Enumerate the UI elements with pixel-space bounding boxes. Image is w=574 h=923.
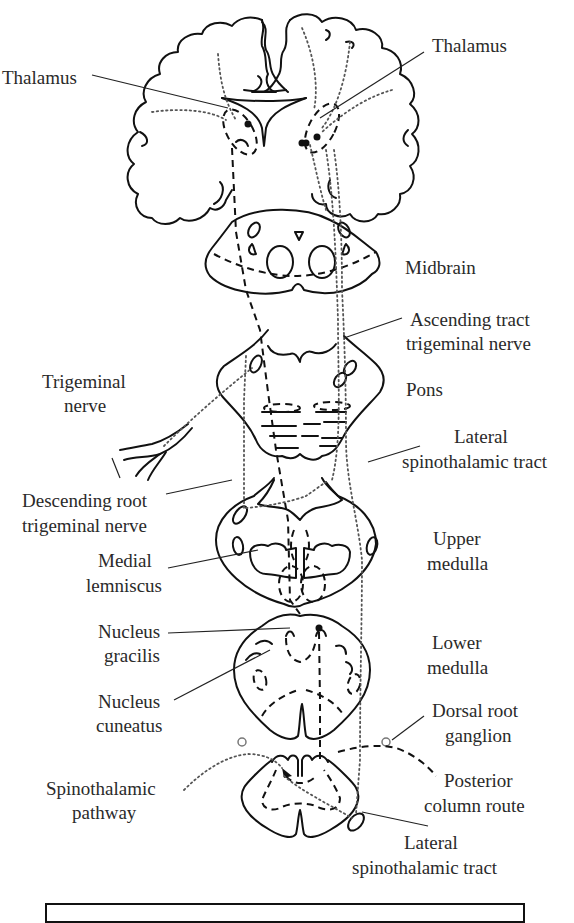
label-dorsal-root-ganglion: Dorsal root — [432, 700, 519, 721]
label-spinothalamic-pathway: Spinothalamic — [46, 778, 156, 799]
label-medial-lemniscus-2: lemniscus — [86, 575, 162, 596]
cerebrum — [128, 14, 419, 224]
label-descending-root-2: trigeminal nerve — [22, 515, 147, 536]
label-lower-medulla: Lower — [432, 632, 482, 653]
label-pons: Pons — [406, 379, 443, 400]
label-medial-lemniscus: Medial — [98, 550, 152, 571]
label-trigeminal-nerve: Trigeminal — [42, 371, 126, 392]
spinal-cord — [184, 738, 436, 837]
label-lateral-spinothalamic-upper-2: spinothalamic tract — [402, 451, 548, 472]
label-posterior-column-route: Posterior — [444, 770, 513, 791]
lower-medulla — [234, 615, 370, 739]
label-dorsal-root-ganglion-2: ganglion — [445, 725, 512, 746]
label-upper-medulla-2: medulla — [427, 553, 489, 574]
legend-box — [45, 903, 525, 923]
label-ascending-tract-2: trigeminal nerve — [406, 333, 531, 354]
label-nucleus-gracilis: Nucleus — [98, 621, 160, 642]
label-thalamus-left: Thalamus — [2, 67, 77, 88]
label-nucleus-cuneatus: Nucleus — [98, 691, 160, 712]
label-lateral-spinothalamic-lower-2: spinothalamic tract — [352, 857, 498, 878]
label-descending-root: Descending root — [22, 490, 148, 511]
label-spinothalamic-pathway-2: pathway — [72, 802, 137, 823]
label-thalamus-right: Thalamus — [432, 35, 507, 56]
upper-medulla — [216, 478, 379, 607]
label-upper-medulla: Upper — [433, 528, 481, 549]
midbrain — [206, 210, 380, 294]
label-lateral-spinothalamic-lower: Lateral — [404, 832, 458, 853]
label-lateral-spinothalamic-upper: Lateral — [454, 426, 508, 447]
label-nucleus-cuneatus-2: cuneatus — [96, 715, 162, 736]
label-nucleus-gracilis-2: gracilis — [104, 645, 160, 666]
label-ascending-tract: Ascending tract — [410, 309, 530, 330]
label-lower-medulla-2: medulla — [427, 657, 489, 678]
label-midbrain: Midbrain — [405, 257, 476, 278]
label-posterior-column-route-2: column route — [424, 795, 525, 816]
label-trigeminal-nerve-2: nerve — [64, 395, 106, 416]
pathways — [232, 148, 362, 814]
